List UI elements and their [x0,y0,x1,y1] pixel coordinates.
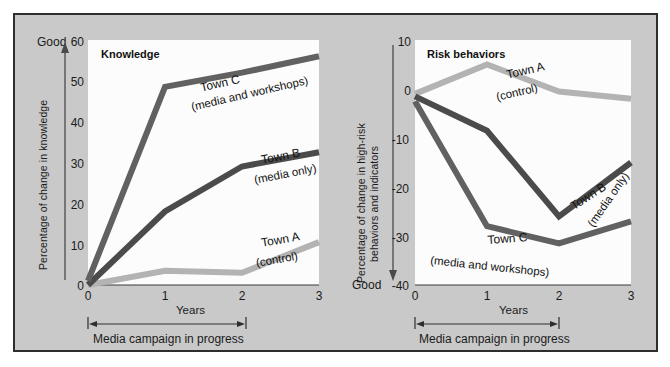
chart-risk-behaviors: Percentage of change in high-risk behavi… [15,15,656,350]
figure-panel: Percentage of change in knowledge Good 6… [13,13,658,352]
figure-root: Percentage of change in knowledge Good 6… [0,0,670,367]
series-label-town-c-risk: Town C [487,230,528,247]
series-risk-svg [15,15,660,354]
